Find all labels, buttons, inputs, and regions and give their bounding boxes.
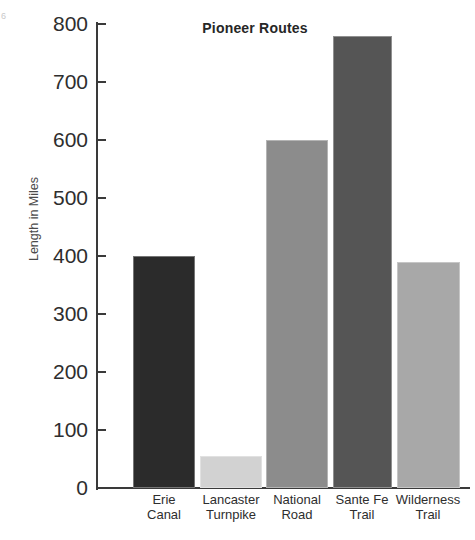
y-tick-label-wrap: 500 [22,187,88,208]
y-tick-label: 100 [32,419,88,440]
y-tick-label-wrap: 600 [22,129,88,150]
y-tick-label: 400 [32,245,88,266]
x-axis-label: WildernessTrail [373,492,475,522]
y-tick-label-wrap: 300 [22,303,88,324]
y-tick-label-wrap: 100 [22,419,88,440]
y-tick-label: 600 [32,129,88,150]
y-tick-label: 800 [32,13,88,34]
plot-area [97,24,470,488]
x-axis-label-line: Wilderness [373,492,475,507]
x-axis-label-line: Trail [373,507,475,522]
y-tick-label: 300 [32,303,88,324]
y-tick-label-wrap: 800 [22,13,88,34]
y-tick-label-wrap: 400 [22,245,88,266]
y-tick-label: 700 [32,71,88,92]
page-folio-artifact: 6 [1,8,11,24]
bar-chart: 6 Pioneer Routes Length in Miles 0100200… [0,0,475,540]
y-tick-label-wrap: 700 [22,71,88,92]
bar-lancaster-turnpike [200,456,262,488]
bar-wilderness-trail [397,262,460,488]
bar-erie-canal [133,256,195,488]
y-tick-label: 0 [32,477,88,498]
y-tick-label: 500 [32,187,88,208]
y-tick-label-wrap: 200 [22,361,88,382]
bar-national-road [266,140,328,488]
bar-sante-fe-trail [333,36,392,488]
y-tick-label-wrap: 0 [22,477,88,498]
y-tick-label: 200 [32,361,88,382]
